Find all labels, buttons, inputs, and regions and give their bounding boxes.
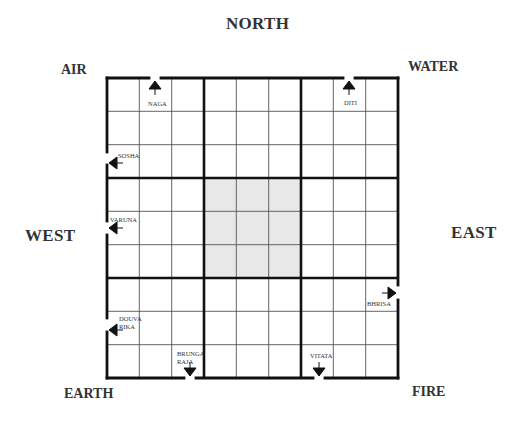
center-shaded-zone bbox=[205, 179, 301, 279]
door-label-brunga-line2: RAJA bbox=[177, 358, 204, 366]
door-label-douva-line2: RIKA bbox=[119, 323, 142, 331]
door-label-varuna: VARUNA bbox=[110, 216, 137, 224]
arrow-right-icon bbox=[382, 287, 396, 299]
vastu-grid-diagram bbox=[0, 0, 516, 424]
door-label-vitata: VITATA bbox=[310, 352, 332, 360]
door-label-brunga-raja: BRUNGA RAJA bbox=[177, 350, 204, 366]
arrow-up-icon bbox=[343, 81, 355, 95]
door-label-bhrisa: BHRISA bbox=[367, 300, 391, 308]
arrow-up-icon bbox=[149, 81, 161, 95]
door-label-douva-line1: DOUVA bbox=[119, 315, 142, 323]
arrow-down-icon bbox=[313, 362, 325, 376]
door-label-naga: NAGA bbox=[148, 100, 167, 108]
door-label-douva-rika: DOUVA RIKA bbox=[119, 315, 142, 331]
door-label-sosha: SOSHA bbox=[118, 152, 139, 160]
door-label-diti: DITI bbox=[344, 99, 357, 107]
door-label-brunga-line1: BRUNGA bbox=[177, 350, 204, 358]
